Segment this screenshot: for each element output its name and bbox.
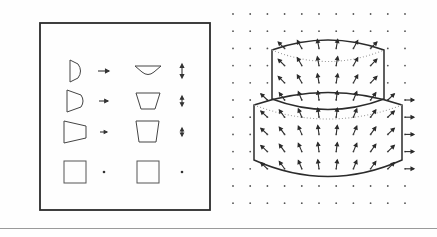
grid-dot xyxy=(387,13,389,15)
vector-arrow-head xyxy=(411,150,414,153)
lower-cylinder xyxy=(254,93,402,177)
vector-arrow-head xyxy=(335,160,338,163)
grid-dot xyxy=(249,99,251,101)
grid-dot xyxy=(335,30,337,32)
grid-dot xyxy=(318,202,320,204)
upper-cylinder xyxy=(272,40,384,110)
grid-dot xyxy=(232,168,234,170)
source-arrow-dot xyxy=(103,171,106,174)
vector-arrow-head xyxy=(298,126,301,129)
grid-dot xyxy=(267,30,269,32)
grid-dot xyxy=(232,151,234,153)
vector-arrow-head xyxy=(411,116,414,119)
grid-dot xyxy=(301,30,303,32)
table-row xyxy=(70,60,184,82)
grid-dot xyxy=(284,13,286,15)
grid-dot xyxy=(353,30,355,32)
upper-cylinder-back-ellipse xyxy=(272,50,384,62)
source-shape-wedge xyxy=(67,90,83,112)
grid-dot xyxy=(232,13,234,15)
grid-dot xyxy=(267,82,269,84)
cylinder-vector-field-drawing xyxy=(219,0,437,222)
vector-arrow-head xyxy=(335,125,338,128)
grid-dot xyxy=(404,13,406,15)
vector-arrow-head xyxy=(354,109,357,112)
grid-dot xyxy=(232,99,234,101)
vector-arrow-head xyxy=(317,143,320,146)
vector-arrow-head xyxy=(316,57,319,60)
grid-dot xyxy=(232,116,234,118)
cylinder-vector-field-panel xyxy=(219,0,437,222)
grid-dot xyxy=(232,48,234,50)
grid-dot xyxy=(267,185,269,187)
vector-arrow-head xyxy=(298,143,301,146)
vector-arrow-head xyxy=(298,161,301,164)
grid-dot xyxy=(387,65,389,67)
grid-dot xyxy=(387,202,389,204)
target-shape-square xyxy=(137,161,159,183)
vector-arrow-head xyxy=(335,143,338,146)
grid-dot xyxy=(249,134,251,136)
grid-dot xyxy=(284,202,286,204)
grid-dot xyxy=(301,185,303,187)
bottom-separator-rule xyxy=(0,228,437,229)
grid-dot xyxy=(267,13,269,15)
grid-dot xyxy=(249,30,251,32)
grid-dot xyxy=(249,82,251,84)
grid-dot xyxy=(249,48,251,50)
target-arrow xyxy=(181,128,184,136)
grid-dot xyxy=(335,185,337,187)
vector-arrow-head xyxy=(411,167,414,170)
grid-dot xyxy=(404,185,406,187)
grid-dot xyxy=(370,13,372,15)
target-arrow-dot xyxy=(181,171,184,174)
panel-frame xyxy=(40,23,210,210)
grid-dot xyxy=(249,116,251,118)
grid-dot xyxy=(249,185,251,187)
grid-dot xyxy=(267,48,269,50)
grid-dot xyxy=(353,185,355,187)
vector-arrow-head xyxy=(297,75,300,78)
source-shape-square xyxy=(64,161,86,183)
grid-dot xyxy=(318,30,320,32)
grid-dot xyxy=(232,185,234,187)
table-row xyxy=(64,161,183,183)
grid-dot xyxy=(232,30,234,32)
grid-dot xyxy=(232,202,234,204)
grid-dot xyxy=(404,202,406,204)
vector-arrow-head xyxy=(316,74,319,77)
grid-dot xyxy=(387,82,389,84)
vector-arrow-head xyxy=(335,91,338,94)
vector-arrow-head xyxy=(297,41,300,44)
vector-arrow-head xyxy=(298,109,301,112)
vector-arrow-head xyxy=(336,74,339,77)
figure-root xyxy=(0,0,437,237)
grid-dot xyxy=(387,185,389,187)
table-row xyxy=(64,121,184,143)
grid-dot xyxy=(267,65,269,67)
vector-arrow-head xyxy=(355,75,358,78)
grid-dot xyxy=(387,30,389,32)
grid-dot xyxy=(404,82,406,84)
table-row xyxy=(67,90,184,112)
displacement-vector-field xyxy=(261,40,414,171)
vector-arrow-head xyxy=(298,92,301,95)
vector-arrow-head xyxy=(354,143,357,146)
grid-dot xyxy=(353,13,355,15)
vector-arrow-head xyxy=(354,92,357,95)
vector-arrow-head xyxy=(355,41,358,44)
target-shape-trapezoid-tall xyxy=(136,121,159,142)
lower-cylinder-back-ellipse xyxy=(254,105,402,119)
source-arrow xyxy=(98,69,109,73)
grid-dot xyxy=(318,13,320,15)
target-arrow xyxy=(180,64,183,78)
grid-dot xyxy=(301,202,303,204)
grid-dot xyxy=(370,30,372,32)
grid-dot xyxy=(353,202,355,204)
grid-dot xyxy=(318,185,320,187)
grid-dot xyxy=(249,65,251,67)
vector-arrow-head xyxy=(317,125,320,128)
vector-arrow-head xyxy=(355,58,358,61)
grid-dot xyxy=(370,202,372,204)
source-shape-wide-trapezoid xyxy=(64,121,86,143)
